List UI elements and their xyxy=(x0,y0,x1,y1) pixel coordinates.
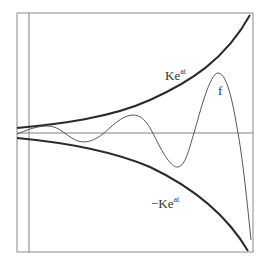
upper-envelope-label: Keat xyxy=(165,67,187,83)
function-label: f xyxy=(218,83,223,98)
function-f-curve xyxy=(17,73,251,240)
lower-envelope-label: −Keat xyxy=(151,195,180,211)
lower-envelope-curve xyxy=(17,138,248,251)
upper-envelope-curve xyxy=(17,15,250,128)
diagram-canvas: Keat f −Keat xyxy=(0,0,270,268)
